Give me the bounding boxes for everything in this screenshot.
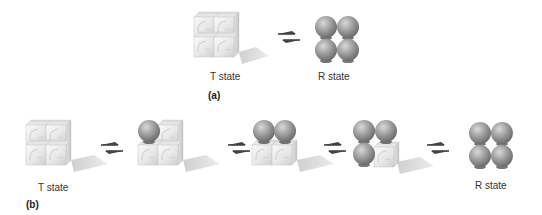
panel-a: T state R state (a) — [0, 0, 542, 108]
r-state-caption-b: R state — [475, 180, 507, 191]
r-state-tetramer-b — [464, 116, 524, 176]
t-state-caption-a: T state — [210, 71, 240, 82]
panel-b: T state R state (b) — [0, 108, 542, 215]
equilibrium-arrows-icon — [278, 31, 302, 45]
panel-b-label: (b) — [26, 199, 39, 210]
panel-a-label: (a) — [208, 90, 220, 101]
shadow — [239, 47, 269, 64]
equilibrium-arrows-icon — [101, 142, 125, 156]
r-state-caption-a: R state — [318, 71, 350, 82]
t-state-tetramer-a — [194, 12, 274, 70]
t-state-caption-b: T state — [38, 182, 68, 193]
r-state-tetramer-a — [308, 10, 368, 70]
equilibrium-arrows-icon — [228, 142, 252, 156]
intermediate-1-tetramer — [138, 112, 228, 182]
equilibrium-arrows-icon — [427, 142, 451, 156]
equilibrium-arrows-icon — [324, 142, 348, 156]
